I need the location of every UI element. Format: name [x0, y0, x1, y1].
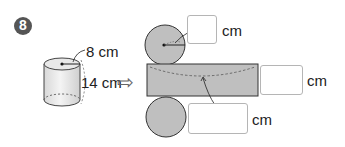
net-top-circle [145, 25, 189, 65]
cylinder-figure [44, 50, 85, 106]
answer-box-radius[interactable] [187, 15, 217, 44]
unit-label-rect-width: cm [252, 112, 272, 127]
height-label: 14 cm [81, 75, 122, 90]
arrow-right-icon: ⇨ [117, 72, 134, 92]
answer-box-rect-width[interactable] [188, 103, 248, 134]
unit-label-rect-height: cm [307, 73, 327, 88]
net-bottom-circle [146, 97, 186, 137]
unit-label-radius: cm [222, 23, 242, 38]
problem-number: 8 [18, 18, 28, 32]
radius-label: 8 cm [86, 44, 119, 59]
answer-box-rect-height[interactable] [260, 65, 303, 95]
